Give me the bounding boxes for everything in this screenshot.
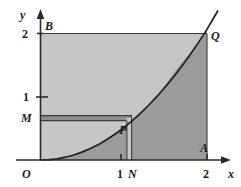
y-axis-arrowhead <box>37 9 45 19</box>
region-fills <box>41 30 208 160</box>
point-label-a: A <box>199 141 208 155</box>
x-axis-label: x <box>227 167 234 181</box>
point-label-b: B <box>44 19 53 33</box>
point-label-m: M <box>20 111 32 125</box>
x-tick-label-1: 1 <box>117 167 123 181</box>
x-tick-label-2: 2 <box>203 167 209 181</box>
origin-label: O <box>22 167 31 181</box>
geometry-figure: y x O 2 1 1 2 B Q A M N P <box>0 0 241 187</box>
point-label-p: P <box>119 123 127 137</box>
strip-M-P <box>41 116 133 121</box>
y-axis-label: y <box>18 8 26 22</box>
point-label-q: Q <box>211 29 220 43</box>
x-axis-arrowhead <box>221 156 231 164</box>
figure-canvas: y x O 2 1 1 2 B Q A M N P <box>0 0 241 187</box>
y-tick-label-1: 1 <box>23 90 29 104</box>
point-label-n: N <box>127 167 138 181</box>
y-tick-label-2: 2 <box>22 27 28 41</box>
